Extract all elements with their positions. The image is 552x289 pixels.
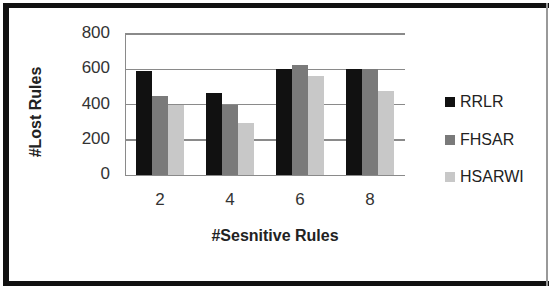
- frame-border-top: [3, 3, 549, 8]
- bar-rrlr-8: [346, 69, 362, 175]
- legend-swatch: [445, 172, 455, 182]
- y-tick-label: 200: [60, 130, 110, 148]
- bar-fhsar-6: [292, 65, 308, 175]
- y-axis-label: #Lost Rules: [27, 57, 47, 167]
- y-tick-label: 400: [60, 95, 110, 113]
- legend-item-rrlr: RRLR: [445, 92, 504, 112]
- legend-swatch: [445, 97, 455, 107]
- y-tick-label: 800: [60, 24, 110, 42]
- frame-border-left: [3, 3, 9, 286]
- bar-hsarwi-8: [378, 91, 394, 176]
- x-axis-label: #Sesnitive Rules: [195, 227, 355, 245]
- legend-label: FHSAR: [460, 131, 514, 149]
- bar-fhsar-2: [152, 96, 168, 175]
- bar-rrlr-2: [136, 71, 152, 175]
- legend-label: HSARWI: [460, 168, 524, 186]
- bar-rrlr-4: [206, 93, 222, 175]
- x-tick-label: 2: [145, 190, 175, 210]
- bar-fhsar-8: [362, 69, 378, 175]
- bar-hsarwi-4: [238, 123, 254, 175]
- y-tick-label: 600: [60, 59, 110, 77]
- x-tick-label: 6: [285, 190, 315, 210]
- y-axis-line: [125, 34, 126, 176]
- x-tick-label: 4: [215, 190, 245, 210]
- y-tick-label: 0: [60, 165, 110, 183]
- legend-label: RRLR: [460, 93, 504, 111]
- bar-hsarwi-6: [308, 76, 324, 175]
- x-tick-label: 8: [355, 190, 385, 210]
- frame-border-bottom: [3, 281, 549, 286]
- frame-border-right: [546, 3, 548, 286]
- bar-fhsar-4: [222, 105, 238, 176]
- legend-item-fhsar: FHSAR: [445, 130, 514, 150]
- legend-item-hsarwi: HSARWI: [445, 167, 524, 187]
- bar-hsarwi-2: [168, 105, 184, 176]
- gridline: [125, 33, 405, 35]
- legend-swatch: [445, 135, 455, 145]
- bar-rrlr-6: [276, 69, 292, 175]
